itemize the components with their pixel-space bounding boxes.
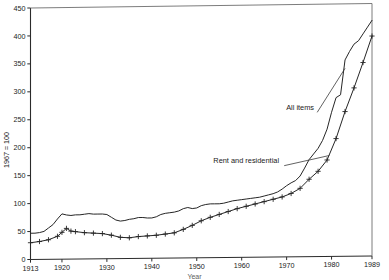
annotation-label: All items	[286, 103, 314, 112]
x-tick-label: 1989	[364, 260, 380, 269]
y-axis-title-text: 1967 = 100	[2, 132, 11, 168]
series-line-rent-and-residential	[31, 36, 373, 243]
annotation-label: Rent and residential	[213, 156, 279, 165]
y-tick-label: 50	[18, 227, 26, 236]
y-tick-label: 350	[14, 59, 26, 68]
y-tick-label: 450	[14, 4, 26, 13]
axis-tick-labels: 0501001502002503003504004501913192019301…	[14, 4, 381, 273]
axis-ticks	[27, 8, 372, 263]
x-tick-label: 1970	[279, 261, 295, 270]
x-tick-label: 1950	[189, 262, 205, 271]
y-tick-label: 100	[14, 199, 26, 208]
x-tick-label: 1940	[144, 262, 160, 271]
y-tick-label: 300	[14, 87, 26, 96]
y-tick-label: 250	[14, 115, 26, 124]
y-tick-label: 400	[14, 32, 26, 41]
chart-container: 0501001502002503003504004501913192019301…	[0, 0, 389, 280]
line-chart: 0501001502002503003504004501913192019301…	[0, 0, 389, 280]
x-tick-label: 1960	[234, 261, 250, 270]
x-axis-title: Year	[0, 271, 389, 280]
y-axis-title: 1967 = 100	[2, 132, 11, 168]
series-annotations: All itemsRent and residential	[213, 68, 345, 165]
x-tick-label: 1980	[324, 260, 340, 269]
data-series	[28, 20, 375, 245]
series-line-all-items	[31, 20, 373, 233]
y-tick-label: 200	[14, 143, 26, 152]
y-tick-label: 150	[14, 171, 26, 180]
